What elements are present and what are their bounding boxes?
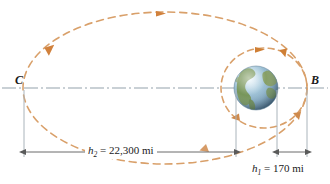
dimension-label-h2: h2 = 22,300 mi	[85, 145, 157, 159]
point-label-c: C	[15, 74, 23, 86]
earth-globe	[234, 66, 278, 111]
h2-value-text: = 22,300 mi	[97, 144, 153, 156]
orbit-diagram-canvas: C B h2 = 22,300 mi h1 = 170 mi	[0, 0, 330, 184]
dimension-label-h1: h1 = 170 mi	[250, 163, 306, 177]
point-label-b: B	[311, 74, 319, 86]
transfer-orbit-arrow-bottom	[200, 144, 210, 152]
diagram-svg	[0, 0, 330, 184]
h1-value-text: = 170 mi	[261, 162, 304, 174]
